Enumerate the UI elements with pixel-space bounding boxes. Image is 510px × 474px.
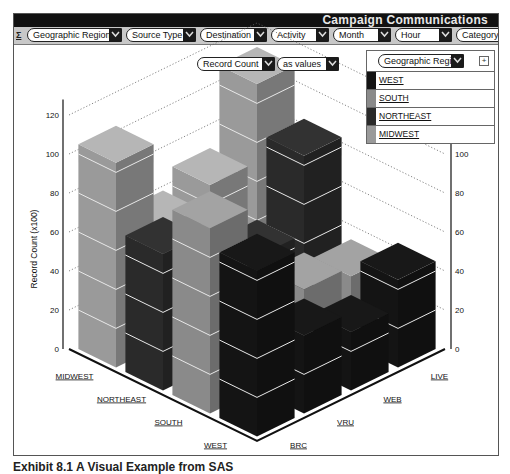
svg-text:0: 0 <box>455 345 460 354</box>
y-axis-left: 020406080100120Record Count (x100) <box>29 99 63 354</box>
source-label-live[interactable]: LIVE <box>431 372 448 381</box>
svg-text:100: 100 <box>46 150 60 159</box>
source-label-vru[interactable]: VRU <box>337 418 354 427</box>
svg-text:80: 80 <box>455 189 464 198</box>
svg-text:60: 60 <box>455 228 464 237</box>
legend-swatch <box>367 90 376 107</box>
svg-text:60: 60 <box>50 228 59 237</box>
svg-text:120: 120 <box>46 111 60 120</box>
svg-text:40: 40 <box>50 267 59 276</box>
legend-label[interactable]: WEST <box>379 75 404 85</box>
region-label-south[interactable]: SOUTH <box>155 418 183 427</box>
legend-label[interactable]: NORTHEAST <box>379 111 431 121</box>
source-label-brc[interactable]: BRC <box>290 441 307 450</box>
source-label-web[interactable]: WEB <box>383 395 401 404</box>
svg-text:100: 100 <box>455 150 469 159</box>
measure-select[interactable]: Record Count <box>197 57 275 71</box>
legend-item-midwest[interactable]: MIDWEST <box>367 126 494 143</box>
svg-text:80: 80 <box>50 189 59 198</box>
region-label-northeast[interactable]: NORTHEAST <box>97 395 146 404</box>
legend-dimension-select[interactable]: Geographic Region <box>378 54 464 68</box>
add-dimension-button[interactable]: + <box>479 56 489 66</box>
legend: Geographic Region + WESTSOUTHNORTHEASTMI… <box>366 50 495 144</box>
legend-item-west[interactable]: WEST <box>367 72 494 90</box>
figure-caption: Exhibit 8.1 A Visual Example from SAS <box>13 460 233 474</box>
legend-swatch <box>367 72 376 89</box>
svg-text:20: 20 <box>455 306 464 315</box>
legend-header-label: Geographic Region <box>384 56 462 66</box>
svg-text:40: 40 <box>455 267 464 276</box>
chevron-down-icon[interactable] <box>451 54 464 68</box>
y-axis-title: Record Count (x100) <box>29 209 39 288</box>
measure-label: Record Count <box>203 59 259 69</box>
legend-swatch <box>367 126 376 143</box>
legend-header: Geographic Region + <box>367 51 494 72</box>
legend-swatch <box>367 108 376 125</box>
chevron-down-icon[interactable] <box>326 57 339 71</box>
legend-label[interactable]: SOUTH <box>379 93 409 103</box>
chart-window: Campaign Communications Σ Geographic Reg… <box>13 13 499 456</box>
legend-item-south[interactable]: SOUTH <box>367 90 494 108</box>
mode-label: as values <box>283 59 321 69</box>
region-label-midwest[interactable]: MIDWEST <box>56 372 94 381</box>
chevron-down-icon[interactable] <box>262 57 275 71</box>
region-label-west[interactable]: WEST <box>204 441 227 450</box>
svg-text:0: 0 <box>55 345 60 354</box>
bar-west-brc[interactable] <box>219 234 294 437</box>
mode-select[interactable]: as values <box>277 57 339 71</box>
legend-item-northeast[interactable]: NORTHEAST <box>367 108 494 126</box>
svg-text:20: 20 <box>50 306 59 315</box>
legend-label[interactable]: MIDWEST <box>379 129 419 139</box>
